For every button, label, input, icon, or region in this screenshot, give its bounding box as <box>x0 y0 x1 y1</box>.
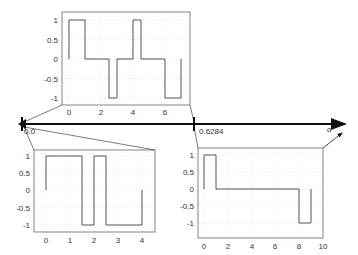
svg-text:4: 4 <box>250 242 255 251</box>
svg-text:1: 1 <box>190 151 195 160</box>
svg-text:4: 4 <box>131 108 136 117</box>
svg-text:0: 0 <box>202 242 207 251</box>
alpha-axis: 0.0 0.6284 α <box>18 117 345 148</box>
plot-top: 0 2 4 6 1 0.5 0 -0.5 -1 <box>44 12 190 117</box>
svg-text:0: 0 <box>44 236 49 245</box>
y-tick-labels: 1 0.5 0 -0.5 -1 <box>44 16 58 103</box>
svg-text:-0.5: -0.5 <box>180 202 194 211</box>
svg-text:1: 1 <box>68 236 73 245</box>
axis-alpha-label: α <box>327 125 332 134</box>
svg-text:1: 1 <box>54 16 59 25</box>
svg-text:0: 0 <box>67 108 72 117</box>
svg-text:0: 0 <box>26 186 31 195</box>
plot-bottom-left: 0 1 2 3 4 1 0.5 0 -0.5 -1 <box>16 150 155 245</box>
connector-lines <box>24 105 198 150</box>
svg-text:4: 4 <box>140 236 145 245</box>
grid-lines <box>198 148 323 238</box>
plot-frame <box>198 148 323 238</box>
svg-text:8: 8 <box>297 242 302 251</box>
svg-text:2: 2 <box>226 242 231 251</box>
svg-text:-1: -1 <box>187 219 195 228</box>
svg-text:2: 2 <box>99 108 104 117</box>
axis-marker-label: 0.6284 <box>199 127 224 136</box>
svg-text:-1: -1 <box>51 94 59 103</box>
signal-trace <box>69 20 181 98</box>
y-tick-labels: 1 0.5 0 -0.5 -1 <box>180 151 194 228</box>
plot-bottom-right: 0 2 4 6 8 10 1 0.5 0 -0.5 -1 <box>180 148 328 251</box>
x-tick-labels: 0 1 2 3 4 <box>44 236 145 245</box>
svg-text:-0.5: -0.5 <box>44 75 58 84</box>
svg-text:0.5: 0.5 <box>19 169 31 178</box>
signal-trace <box>46 156 142 225</box>
axis-start-label: 0.0 <box>24 127 36 136</box>
svg-text:10: 10 <box>319 242 328 251</box>
svg-text:0.5: 0.5 <box>183 168 195 177</box>
signal-trace <box>204 155 311 223</box>
svg-text:0: 0 <box>54 55 59 64</box>
svg-text:0: 0 <box>190 185 195 194</box>
svg-text:6: 6 <box>273 242 278 251</box>
svg-text:-1: -1 <box>23 221 31 230</box>
svg-text:0.5: 0.5 <box>47 36 59 45</box>
y-tick-labels: 1 0.5 0 -0.5 -1 <box>16 152 30 230</box>
svg-text:-0.5: -0.5 <box>16 204 30 213</box>
x-tick-labels: 0 2 4 6 8 10 <box>202 242 328 251</box>
diagonal-arrow <box>323 133 342 148</box>
diagram-canvas: 0 2 4 6 1 0.5 0 -0.5 -1 <box>0 0 358 255</box>
x-tick-labels: 0 2 4 6 <box>67 108 168 117</box>
svg-text:2: 2 <box>92 236 97 245</box>
svg-text:6: 6 <box>163 108 168 117</box>
svg-text:3: 3 <box>116 236 121 245</box>
svg-text:1: 1 <box>26 152 31 161</box>
